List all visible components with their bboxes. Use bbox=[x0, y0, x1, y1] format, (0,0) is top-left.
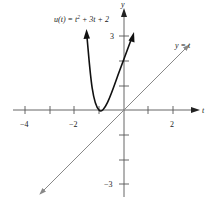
curve-label: u(t) = t2 + 3t + 2 bbox=[54, 14, 109, 24]
y-axis: y 3 −3 bbox=[104, 0, 129, 197]
y-axis-label: y bbox=[120, 0, 125, 9]
t-axis-label: t bbox=[202, 106, 205, 115]
chart-canvas: t −4 −2 2 y 3 −3 y = t u(t) = t2 + 3t + … bbox=[0, 0, 210, 202]
y-axis-arrow-icon bbox=[121, 8, 127, 17]
tick-label-2: 2 bbox=[170, 120, 174, 129]
t-axis-arrow-icon bbox=[191, 107, 200, 113]
tick-label-neg2: −2 bbox=[69, 120, 78, 129]
parabola-arrow-left-icon bbox=[84, 29, 91, 39]
tick-label-neg3: −3 bbox=[104, 180, 113, 189]
tick-label-neg4: −4 bbox=[20, 120, 29, 129]
series-y-equals-t: y = t bbox=[40, 41, 191, 194]
parabola-arrow-right-icon bbox=[129, 32, 135, 43]
curve-label-suffix: + 3t + 2 bbox=[80, 15, 109, 24]
curve-label-prefix: u(t) = t bbox=[54, 15, 78, 24]
tick-label-3: 3 bbox=[110, 32, 114, 41]
line-label-y-equals-t: y = t bbox=[174, 41, 191, 50]
series-parabola: u(t) = t2 + 3t + 2 bbox=[54, 14, 135, 111]
